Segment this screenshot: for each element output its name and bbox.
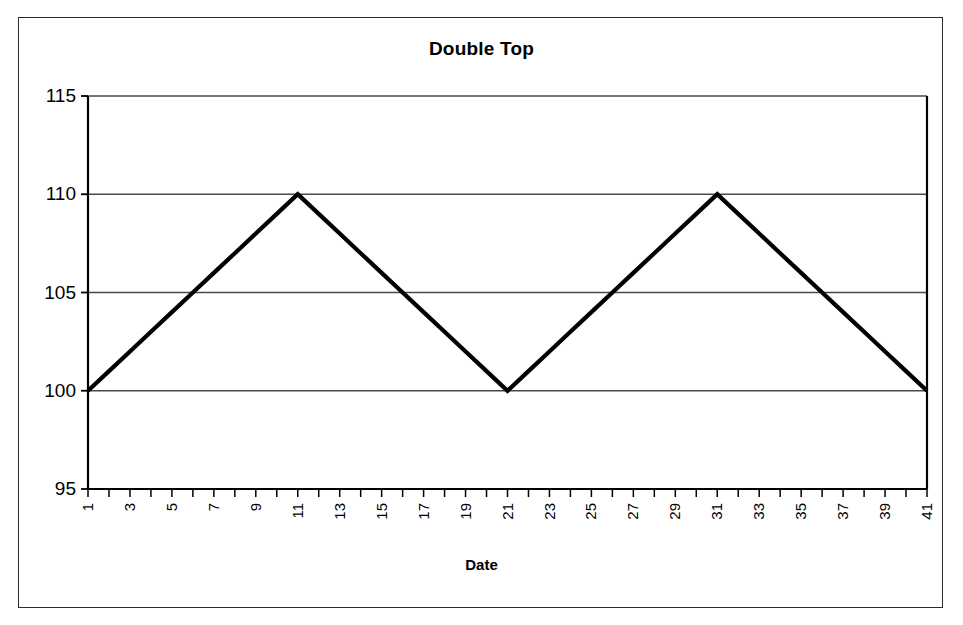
x-tick-label-15: 15 [373, 503, 390, 520]
chart-plot-svg: 95100105110115 1357911131517192123252729… [0, 0, 963, 625]
x-tick-label-31: 31 [708, 503, 725, 520]
y-axis-tick-labels: 95100105110115 [44, 85, 76, 499]
y-tick-label-100: 100 [44, 380, 76, 401]
y-tick-label-95: 95 [55, 478, 76, 499]
y-tick-label-110: 110 [46, 183, 76, 204]
x-tick-label-11: 11 [289, 503, 306, 519]
x-tick-label-21: 21 [499, 503, 516, 520]
y-tick-label-115: 115 [46, 85, 76, 106]
x-axis-title: Date [0, 556, 963, 573]
x-tick-label-3: 3 [121, 503, 138, 511]
x-tick-label-41: 41 [918, 503, 935, 520]
x-tick-label-7: 7 [205, 503, 222, 511]
x-tick-label-9: 9 [247, 503, 264, 511]
x-tick-label-39: 39 [876, 503, 893, 520]
x-tick-label-23: 23 [541, 503, 558, 520]
x-tick-label-33: 33 [750, 503, 767, 520]
gridlines-group [88, 96, 927, 391]
x-tick-label-19: 19 [457, 503, 474, 520]
x-tick-label-25: 25 [583, 503, 600, 520]
x-tick-label-1: 1 [79, 503, 96, 511]
x-axis-ticks [88, 489, 927, 497]
y-tick-label-105: 105 [44, 282, 76, 303]
x-tick-label-27: 27 [624, 503, 641, 520]
x-tick-label-35: 35 [792, 503, 809, 520]
x-tick-label-13: 13 [331, 503, 348, 520]
x-tick-label-37: 37 [834, 503, 851, 520]
chart-figure: Double Top 95100105110115 13579111315171… [0, 0, 963, 625]
x-axis-tick-labels: 1357911131517192123252729313335373941 [79, 503, 935, 520]
x-tick-label-5: 5 [163, 503, 180, 511]
x-tick-label-17: 17 [415, 503, 432, 520]
x-tick-label-29: 29 [666, 503, 683, 520]
